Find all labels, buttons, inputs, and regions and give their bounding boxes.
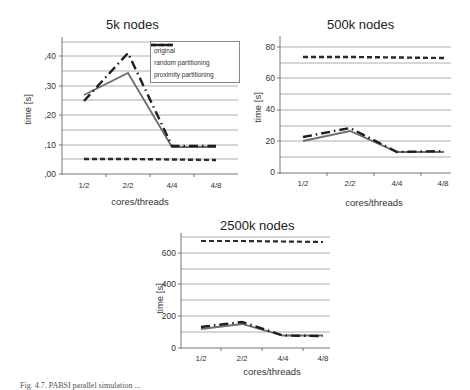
axes <box>178 233 330 351</box>
x-axis-label: cores/threads <box>232 366 312 377</box>
x-tick: 4/4 <box>271 354 295 363</box>
series-original <box>201 241 323 242</box>
x-tick: 2/2 <box>230 354 254 363</box>
x-tick: 4/8 <box>311 354 335 363</box>
figure-caption: Fig. 4.7. PABSI parallel simulation ... <box>20 381 140 390</box>
x-tick: 1/2 <box>189 354 213 363</box>
series-proximity-partitioning <box>201 322 323 336</box>
gridlines <box>181 237 330 332</box>
